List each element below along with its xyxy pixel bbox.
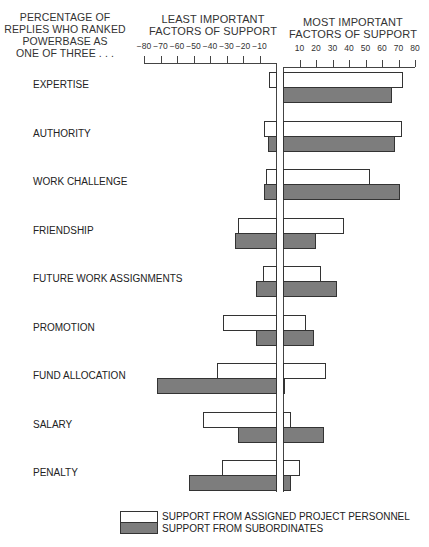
- category-label: FUTURE WORK ASSIGNMENTS: [33, 273, 182, 284]
- right-axis-tick: [415, 60, 416, 67]
- row-header-line: REPLIES WHO RANKED: [0, 23, 130, 35]
- left-axis-tick: [161, 56, 162, 63]
- left-axis-tick-label: −20: [236, 41, 250, 51]
- legend-label-subordinates: SUPPORT FROM SUBORDINATES: [162, 523, 323, 534]
- right-axis-tick: [382, 60, 383, 67]
- bar-assigned-least: [222, 460, 277, 476]
- bar-assigned-most: [283, 218, 344, 234]
- bar-subordinates-most: [283, 233, 316, 249]
- right-axis-tick: [366, 60, 367, 67]
- right-axis-tick-label: 10: [295, 43, 304, 53]
- left-axis-title-line: LEAST IMPORTANT: [148, 13, 278, 25]
- left-axis-tick: [210, 56, 211, 63]
- bar-subordinates-most: [283, 378, 285, 394]
- left-axis-tick-label: −50: [186, 41, 200, 51]
- right-axis-tick: [300, 60, 301, 67]
- bar-assigned-most: [283, 72, 403, 88]
- bar-subordinates-most: [283, 475, 291, 491]
- left-axis-tick-label: −40: [203, 41, 217, 51]
- bar-subordinates-most: [283, 427, 324, 443]
- legend-swatch-subordinates: [120, 522, 158, 534]
- left-axis-tick: [144, 56, 145, 63]
- left-axis-tick-label: −30: [219, 41, 233, 51]
- category-label: FUND ALLOCATION: [33, 370, 126, 381]
- right-axis-tick-label: 40: [344, 43, 353, 53]
- left-axis-tick-label: −60: [170, 41, 184, 51]
- left-axis-tick-label: −10: [252, 41, 266, 51]
- left-axis-line: [144, 63, 276, 64]
- right-axis-tick-label: 80: [410, 43, 419, 53]
- left-axis-tick: [227, 56, 228, 63]
- right-axis-tick: [333, 60, 334, 67]
- left-axis-tick-label: −80: [137, 41, 151, 51]
- category-label: EXPERTISE: [33, 79, 89, 90]
- bar-assigned-most: [283, 266, 321, 282]
- bar-subordinates-most: [283, 330, 314, 346]
- right-axis-tick: [349, 60, 350, 67]
- right-axis-tick-label: 20: [311, 43, 320, 53]
- row-header: PERCENTAGE OF REPLIES WHO RANKED POWERBA…: [0, 11, 130, 59]
- bar-assigned-least: [223, 315, 277, 331]
- category-label: WORK CHALLENGE: [33, 176, 127, 187]
- left-axis-tick: [243, 56, 244, 63]
- right-axis-line: [283, 67, 415, 68]
- bar-subordinates-least: [235, 233, 277, 249]
- bar-assigned-most: [283, 169, 370, 185]
- bar-assigned-least: [263, 266, 277, 282]
- left-axis-tick-label: −70: [153, 41, 167, 51]
- bar-assigned-least: [238, 218, 277, 234]
- category-label: FRIENDSHIP: [33, 225, 94, 236]
- bar-subordinates-most: [283, 184, 400, 200]
- bar-subordinates-least: [268, 136, 277, 152]
- row-header-line: ONE OF THREE . . .: [0, 47, 130, 59]
- category-label: AUTHORITY: [33, 128, 91, 139]
- bar-assigned-least: [203, 412, 277, 428]
- bar-subordinates-most: [283, 87, 392, 103]
- bar-assigned-most: [283, 460, 300, 476]
- bar-subordinates-most: [283, 136, 395, 152]
- bar-assigned-most: [283, 412, 291, 428]
- row-header-line: PERCENTAGE OF: [0, 11, 130, 23]
- right-axis-tick-label: 60: [377, 43, 386, 53]
- left-axis-title: LEAST IMPORTANT FACTORS OF SUPPORT: [148, 13, 278, 37]
- bar-subordinates-least: [189, 475, 277, 491]
- bar-subordinates-least: [264, 184, 277, 200]
- bar-assigned-least: [266, 169, 277, 185]
- bar-assigned-least: [264, 121, 277, 137]
- bar-subordinates-least: [157, 378, 277, 394]
- right-axis-tick-label: 50: [361, 43, 370, 53]
- bar-subordinates-least: [256, 330, 277, 346]
- left-axis-title-line: FACTORS OF SUPPORT: [148, 25, 278, 37]
- bar-assigned-least: [269, 72, 277, 88]
- right-axis-title-line: MOST IMPORTANT: [288, 16, 418, 28]
- row-header-line: POWERBASE AS: [0, 35, 130, 47]
- right-axis-tick-label: 30: [328, 43, 337, 53]
- category-label: SALARY: [33, 419, 72, 430]
- right-axis-tick: [316, 60, 317, 67]
- bar-assigned-most: [283, 121, 402, 137]
- bar-assigned-least: [217, 363, 277, 379]
- bar-assigned-most: [283, 363, 326, 379]
- right-axis-title-line: FACTORS OF SUPPORT: [288, 28, 418, 40]
- bar-subordinates-least: [256, 281, 277, 297]
- left-axis-tick: [194, 56, 195, 63]
- right-axis-tick: [399, 60, 400, 67]
- left-axis-tick: [260, 56, 261, 63]
- legend-label-assigned: SUPPORT FROM ASSIGNED PROJECT PERSONNEL: [162, 511, 410, 522]
- right-axis-tick-label: 70: [394, 43, 403, 53]
- left-axis-tick: [177, 56, 178, 63]
- bar-subordinates-least: [238, 427, 277, 443]
- category-label: PROMOTION: [33, 322, 95, 333]
- right-axis-title: MOST IMPORTANT FACTORS OF SUPPORT: [288, 16, 418, 40]
- bar-assigned-most: [283, 315, 306, 331]
- category-label: PENALTY: [33, 467, 78, 478]
- bar-subordinates-most: [283, 281, 337, 297]
